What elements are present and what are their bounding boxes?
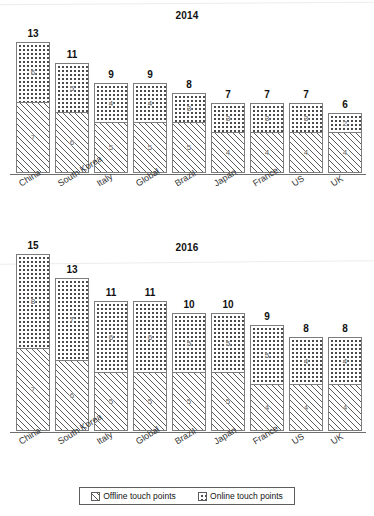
segment-value-offline: 6 xyxy=(70,138,74,147)
bar-total-label: 8 xyxy=(342,323,348,334)
bar-segment-offline: 7 xyxy=(16,348,50,431)
plot-area-2014: 675645453534343424 xyxy=(0,22,374,174)
bar-segment-online: 3 xyxy=(172,93,206,123)
bar-segment-online: 3 xyxy=(250,103,284,133)
bar-global: 65 xyxy=(133,301,167,432)
bar-total-label: 7 xyxy=(225,89,231,100)
segment-value-online: 6 xyxy=(148,333,152,342)
bar-total-label: 11 xyxy=(67,49,78,60)
bar-total-label: 8 xyxy=(303,323,309,334)
bar-segment-online: 3 xyxy=(211,103,245,133)
bar-segment-online: 5 xyxy=(55,63,89,113)
bar-uk: 24 xyxy=(328,113,362,174)
bar-segment-offline: 4 xyxy=(211,132,245,173)
segment-value-online: 5 xyxy=(226,339,230,348)
bar-segment-offline: 5 xyxy=(94,122,128,173)
bar-japan: 55 xyxy=(211,313,245,432)
bar-total-label: 6 xyxy=(342,99,348,110)
bar-total-label: 13 xyxy=(27,28,38,39)
segment-value-online: 5 xyxy=(187,339,191,348)
segment-value-online: 4 xyxy=(343,357,347,366)
bar-total-label: 8 xyxy=(186,79,192,90)
bar-total-label: 9 xyxy=(264,311,270,322)
bar-segment-online: 6 xyxy=(94,301,128,373)
segment-value-offline: 5 xyxy=(226,397,230,406)
bar-total-label: 11 xyxy=(106,287,117,298)
bar-segment-offline: 4 xyxy=(289,384,323,431)
segment-value-offline: 5 xyxy=(187,143,191,152)
bar-segment-offline: 7 xyxy=(16,102,50,173)
segment-value-offline: 4 xyxy=(343,148,347,157)
bar-segment-offline: 4 xyxy=(250,384,284,431)
bar-total-label: 13 xyxy=(66,264,77,275)
bar-us: 44 xyxy=(289,337,323,432)
bar-segment-offline: 4 xyxy=(328,384,362,431)
segment-value-offline: 4 xyxy=(304,148,308,157)
bar-segment-offline: 4 xyxy=(328,132,362,173)
segment-value-offline: 4 xyxy=(265,148,269,157)
segment-value-offline: 7 xyxy=(31,385,35,394)
legend-swatch-offline-icon xyxy=(91,492,100,501)
bar-segment-offline: 5 xyxy=(133,372,167,431)
legend-entry-offline: Offline touch points xyxy=(91,491,176,501)
bar-japan: 34 xyxy=(211,103,245,174)
bar-total-label: 9 xyxy=(147,69,153,80)
bar-south-korea: 56 xyxy=(55,63,89,174)
bar-total-label: 11 xyxy=(145,287,156,298)
bar-china: 67 xyxy=(16,42,50,174)
bar-segment-online: 3 xyxy=(289,103,323,133)
chart-title-2014: 2014 xyxy=(0,10,374,21)
bar-total-label: 10 xyxy=(183,299,194,310)
bar-brazil: 35 xyxy=(172,93,206,174)
segment-value-online: 4 xyxy=(109,99,113,108)
x-axis-label-uk: UK xyxy=(329,173,345,188)
legend-swatch-online-icon xyxy=(198,492,207,501)
bar-segment-offline: 5 xyxy=(172,122,206,173)
bar-segment-online: 5 xyxy=(172,313,206,373)
bar-south-korea: 76 xyxy=(55,278,89,432)
bar-segment-online: 6 xyxy=(16,42,50,103)
segment-value-offline: 7 xyxy=(31,133,35,142)
bar-global: 45 xyxy=(133,83,167,174)
bar-total-label: 9 xyxy=(108,69,114,80)
bar-segment-online: 7 xyxy=(55,278,89,361)
segment-value-offline: 5 xyxy=(109,397,113,406)
segment-value-offline: 5 xyxy=(109,143,113,152)
segment-value-online: 3 xyxy=(187,104,191,113)
segment-value-online: 7 xyxy=(70,315,74,324)
bar-segment-online: 4 xyxy=(289,337,323,385)
segment-value-offline: 5 xyxy=(187,397,191,406)
segment-value-online: 4 xyxy=(148,99,152,108)
chart-panel-2016: 2016 877665655555544444 15China13South K… xyxy=(0,232,374,480)
bar-segment-online: 4 xyxy=(133,83,167,123)
bar-segment-online: 8 xyxy=(16,254,50,349)
segment-value-online: 2 xyxy=(343,119,347,128)
bar-france: 34 xyxy=(250,103,284,174)
bar-total-label: 7 xyxy=(264,89,270,100)
segment-value-online: 3 xyxy=(226,114,230,123)
segment-value-online: 5 xyxy=(70,84,74,93)
x-axis-label-uk: UK xyxy=(329,431,345,446)
bar-segment-offline: 5 xyxy=(172,372,206,431)
segment-value-online: 6 xyxy=(31,68,35,77)
bar-brazil: 55 xyxy=(172,313,206,432)
x-axis-label-us: US xyxy=(290,431,306,446)
segment-value-online: 8 xyxy=(31,297,35,306)
chart-panel-2014: 2014 675645453534343424 13China11South K… xyxy=(0,0,374,228)
legend-entry-online: Online touch points xyxy=(198,491,283,501)
x-axis-label-us: US xyxy=(290,173,306,188)
bar-france: 54 xyxy=(250,325,284,432)
bar-segment-online: 5 xyxy=(250,325,284,385)
bar-segment-online: 5 xyxy=(211,313,245,373)
legend-label-offline: Offline touch points xyxy=(103,491,176,501)
bar-uk: 44 xyxy=(328,337,362,432)
segment-value-offline: 5 xyxy=(148,143,152,152)
segment-value-offline: 4 xyxy=(226,148,230,157)
bar-segment-online: 6 xyxy=(133,301,167,373)
chart-legend: Offline touch points Online touch points xyxy=(79,487,295,505)
segment-value-online: 3 xyxy=(304,114,308,123)
bar-segment-offline: 4 xyxy=(250,132,284,173)
bar-total-label: 15 xyxy=(27,240,38,251)
segment-value-offline: 4 xyxy=(304,403,308,412)
segment-value-online: 3 xyxy=(265,114,269,123)
